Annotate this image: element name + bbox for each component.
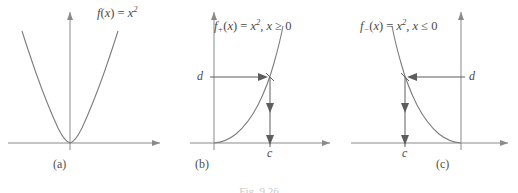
panel-c-c-label: c (402, 147, 407, 159)
x-axis (190, 140, 330, 146)
panel-c-d-label: d (469, 70, 475, 82)
panel-b-d-label: d (197, 70, 203, 82)
parabola-right-branch (214, 26, 283, 143)
figure-9-26: f(x) = x2 (a) (0, 0, 518, 193)
arrow-curve-to-c (401, 77, 409, 145)
panel-c: f−(x) = x2, x ≤ 0 d c (c) (343, 0, 518, 193)
parabola-left-branch (392, 26, 461, 143)
figure-caption: Fig. 9.26 (0, 185, 518, 193)
panel-b-c-label: c (267, 147, 272, 159)
arrow-d-to-curve (218, 73, 268, 81)
arrow-curve-to-c (266, 77, 274, 145)
x-axis (8, 140, 160, 146)
panel-b-equation: f+(x) = x2, x ≥ 0 (214, 18, 291, 33)
panel-c-tag: (c) (436, 158, 449, 170)
x-axis (351, 140, 508, 146)
arrow-d-to-curve (407, 73, 457, 81)
panel-b-tag: (b) (195, 158, 209, 170)
panel-b: f+(x) = x2, x ≥ 0 d c (b) (178, 0, 343, 193)
panel-a-equation: f(x) = x2 (97, 5, 138, 20)
panel-a-tag: (a) (53, 158, 66, 170)
panel-a-graph (0, 0, 178, 193)
panel-a: f(x) = x2 (a) (0, 0, 178, 193)
panel-c-equation: f−(x) = x2, x ≤ 0 (360, 18, 437, 33)
y-axis (67, 12, 73, 150)
y-axis (458, 12, 464, 150)
